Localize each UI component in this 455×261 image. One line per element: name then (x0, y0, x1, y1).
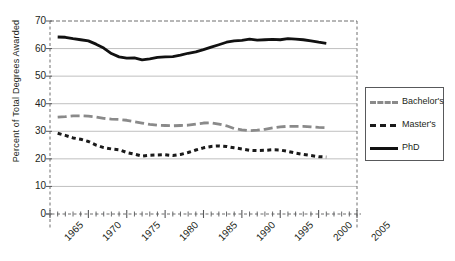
series-line-bachelors (58, 116, 327, 131)
legend-swatch-phd-icon (370, 147, 398, 150)
legend: Bachelor's Master's PhD (365, 87, 444, 161)
legend-label-phd: PhD (402, 141, 420, 153)
legend-item-masters[interactable]: Master's (370, 117, 444, 133)
chart-container: Percent of Total Degrees Awarded 0102030… (0, 0, 455, 261)
legend-item-bachelors[interactable]: Bachelor's (370, 94, 444, 110)
legend-label-masters: Master's (402, 118, 436, 130)
legend-label-bachelors: Bachelor's (402, 95, 444, 107)
legend-item-phd[interactable]: PhD (370, 140, 444, 156)
series-line-masters (58, 133, 327, 157)
legend-swatch-masters-icon (370, 124, 396, 127)
legend-swatch-bachelors-icon (370, 101, 398, 104)
